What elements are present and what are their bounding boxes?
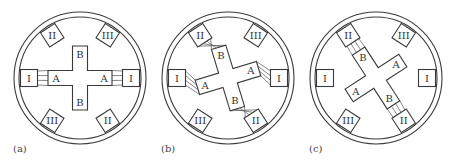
panel-b: IIIIIIIIIIIIAABB(b) — [161, 12, 294, 154]
stator-pole-ii: II — [188, 23, 212, 47]
pole-label: III — [46, 115, 58, 126]
stator-pole-i: I — [271, 70, 288, 87]
stator-pole-iii: III — [40, 109, 64, 133]
flux-line — [391, 106, 397, 115]
panel-caption: (c) — [309, 143, 323, 154]
rotor-pole-b-label: B — [76, 97, 83, 108]
pole-label: II — [104, 115, 112, 126]
stator-pole-iii: III — [244, 23, 268, 47]
pole-label: III — [342, 115, 354, 126]
panel-caption: (a) — [13, 143, 27, 154]
flux-line — [38, 85, 49, 86]
rotor-pole-a-label: A — [392, 59, 401, 70]
stator-pole-ii: II — [40, 23, 64, 47]
flux-line — [112, 85, 123, 86]
pole-label: II — [48, 30, 56, 41]
rotor-cross: AABB — [188, 38, 268, 118]
stator-pole-i: I — [419, 70, 436, 87]
rotor-pole-a-label: A — [246, 65, 255, 76]
pole-label: III — [250, 30, 262, 41]
rotor-pole-a-label: A — [51, 73, 60, 84]
rotor-pole-b-label: B — [217, 50, 224, 61]
stator-pole-iii: III — [392, 23, 416, 47]
rotor-body — [188, 38, 268, 118]
pole-label: I — [27, 73, 31, 84]
pole-label: II — [252, 115, 260, 126]
rotor-pole-a-label: A — [351, 86, 360, 97]
stator-pole-ii: II — [96, 109, 120, 133]
stator-pole-iii: III — [336, 109, 360, 133]
flux-line — [400, 101, 405, 110]
flux-line — [186, 71, 196, 80]
pole-label: I — [425, 73, 429, 84]
flux-line — [396, 103, 402, 112]
rotor-pole-a-label: A — [200, 80, 209, 91]
flux-line — [347, 46, 352, 55]
stator-pole-iii: III — [96, 23, 120, 47]
flux-line — [387, 109, 393, 118]
flux-line — [261, 76, 271, 85]
rotor-pole-b-label: B — [76, 49, 83, 60]
rotor-pole-b-label: B — [359, 52, 366, 63]
pole-label: I — [323, 73, 327, 84]
stator-pole-i: I — [123, 70, 140, 87]
panel-caption: (b) — [161, 143, 175, 154]
flux-line — [351, 44, 357, 53]
flux-line — [355, 41, 361, 50]
motor-diagram-figure: IIIIIIIIIIIIAABB(a)IIIIIIIIIIIIAABB(b)II… — [0, 0, 451, 160]
rotor-cross: AABB — [332, 34, 421, 123]
flux-line — [359, 39, 365, 48]
stator-pole-ii: II — [244, 109, 268, 133]
panel-a: IIIIIIIIIIIIAABB(a) — [13, 12, 146, 154]
pole-label: II — [400, 115, 408, 126]
pole-label: II — [344, 30, 352, 41]
stator-pole-iii: III — [188, 109, 212, 133]
stator-pole-i: I — [317, 70, 334, 87]
pole-label: I — [129, 73, 133, 84]
rotor-body — [332, 34, 421, 123]
rotor-pole-b-label: B — [231, 95, 238, 106]
pole-label: I — [277, 73, 281, 84]
stator-pole-i: I — [169, 70, 186, 87]
pole-label: III — [102, 30, 114, 41]
pole-label: III — [398, 30, 410, 41]
panel-c: IIIIIIIIIIIIAABB(c) — [309, 12, 442, 154]
rotor-pole-b-label: B — [385, 93, 392, 104]
pole-label: III — [194, 115, 206, 126]
pole-label: I — [175, 73, 179, 84]
flux-line — [112, 71, 123, 72]
stator-pole-i: I — [21, 70, 38, 87]
flux-line — [38, 71, 49, 72]
rotor-pole-a-label: A — [99, 73, 108, 84]
rotor-cross: AABB — [48, 46, 112, 110]
pole-label: II — [196, 30, 204, 41]
